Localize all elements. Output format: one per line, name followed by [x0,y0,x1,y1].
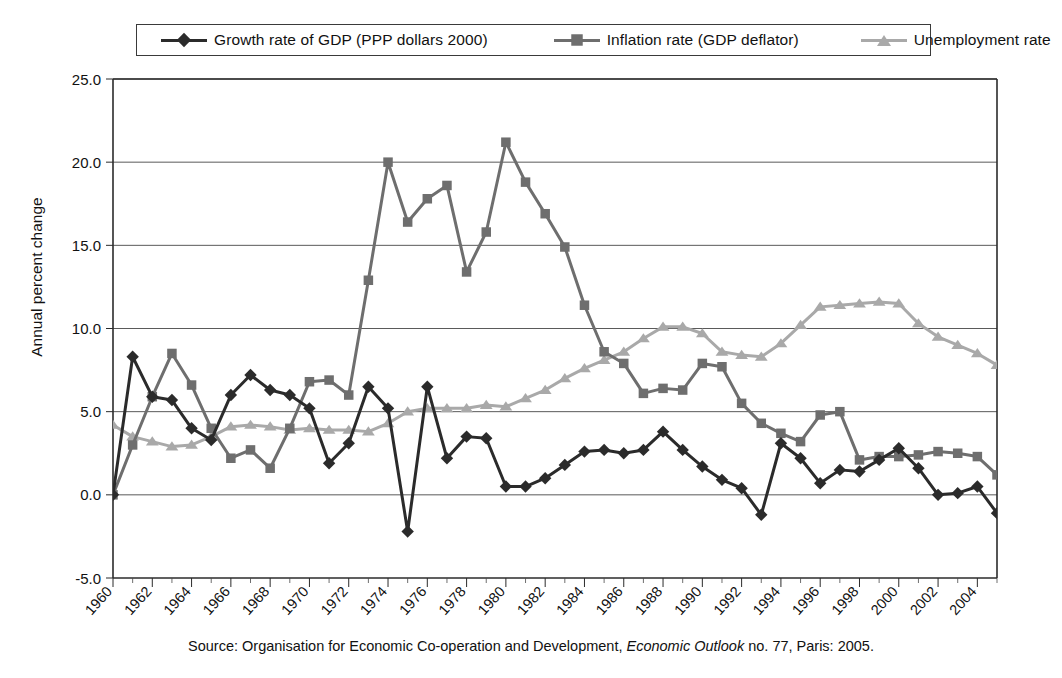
x-tick-label: 1962 [121,583,154,618]
data-point-marker [853,465,865,477]
x-tick-label: 1960 [82,583,115,618]
source-suffix: no. 77, Paris: 2005. [744,638,874,654]
data-point-marker [599,347,609,357]
chart-canvas: 25.020.015.010.05.00.0-5.019601962196419… [0,0,1062,678]
x-tick-label: 2002 [907,583,940,618]
series-group [107,137,1004,537]
y-tick-label: -5.0 [75,570,101,587]
data-point-marker [992,470,1002,480]
data-point-marker [344,390,354,400]
x-tick-label: 1978 [435,583,468,618]
data-point-marker [500,480,512,492]
data-point-marker [481,227,491,237]
source-italic-title: Economic Outlook [627,638,745,654]
data-point-marker [383,157,393,167]
data-point-marker [953,449,963,459]
data-point-marker [246,445,256,455]
data-point-marker [442,181,452,191]
x-tick-label: 1994 [750,583,783,618]
data-point-marker [305,377,315,387]
data-point-marker [364,276,374,286]
data-point-marker [619,359,629,369]
data-point-marker [560,242,570,252]
data-point-marker [519,480,531,492]
data-point-marker [815,410,825,420]
data-point-marker [952,487,964,499]
source-caption: Source: Organisation for Economic Co-ope… [0,638,1062,654]
data-point-marker [855,455,865,465]
data-point-marker [618,447,630,459]
series-line-square [113,142,997,495]
plot-area-wrapper: Annual percent change 25.020.015.010.05.… [0,0,1062,678]
x-tick-label: 1980 [475,583,508,618]
x-tick-label: 1972 [317,583,350,618]
data-point-marker [914,450,924,460]
data-point-marker [226,453,236,463]
x-tick-label: 1968 [239,583,272,618]
data-point-marker [423,194,433,204]
y-tick-label: 10.0 [72,320,101,337]
data-point-marker [598,444,610,456]
data-point-marker [167,349,177,359]
y-tick-label: 0.0 [80,486,101,503]
x-tick-label: 1992 [710,583,743,618]
data-point-marker [796,437,806,447]
data-point-marker [285,424,295,434]
x-tick-label: 1984 [553,583,586,618]
y-tick-label: 20.0 [72,154,101,171]
x-tick-label: 1990 [671,583,704,618]
data-point-marker [776,429,786,439]
data-point-marker [501,137,511,147]
data-point-marker [698,359,708,369]
x-tick-label: 1974 [357,583,390,618]
data-point-marker [128,440,137,450]
data-point-marker [401,525,413,537]
data-point-marker [973,452,983,462]
x-tick-label: 1998 [828,583,861,618]
chart-figure: Growth rate of GDP (PPP dollars 2000) In… [0,0,1062,678]
x-tick-label: 1988 [632,583,665,618]
y-tick-label: 5.0 [80,403,101,420]
x-tick-label: 1996 [789,583,822,618]
x-tick-label: 1964 [160,583,193,618]
data-point-marker [187,380,197,390]
x-tick-label: 1982 [514,583,547,618]
data-point-marker [933,447,943,457]
data-point-marker [403,217,413,227]
data-point-marker [737,399,747,409]
data-point-marker [324,375,334,385]
data-point-marker [126,351,138,363]
x-tick-label: 1976 [396,583,429,618]
data-point-marker [107,420,120,429]
data-point-marker [757,419,767,429]
data-point-marker [540,209,550,219]
data-point-marker [717,362,727,372]
data-point-marker [678,385,688,395]
x-tick-label: 1970 [278,583,311,618]
data-point-marker [265,463,275,473]
x-tick-label: 1966 [200,583,233,618]
data-point-marker [521,177,531,187]
data-point-marker [835,407,845,417]
data-point-marker [480,432,492,444]
x-tick-label: 2004 [946,583,979,618]
y-tick-label: 15.0 [72,237,101,254]
x-tick-label: 1986 [593,583,626,618]
data-point-marker [639,389,649,399]
data-point-marker [462,267,472,277]
y-tick-label: 25.0 [72,71,101,88]
x-tick-label: 2000 [868,583,901,618]
data-point-marker [580,300,590,310]
data-point-marker [421,381,433,393]
data-point-marker [658,384,668,394]
source-prefix: Source: Organisation for Economic Co-ope… [188,638,626,654]
